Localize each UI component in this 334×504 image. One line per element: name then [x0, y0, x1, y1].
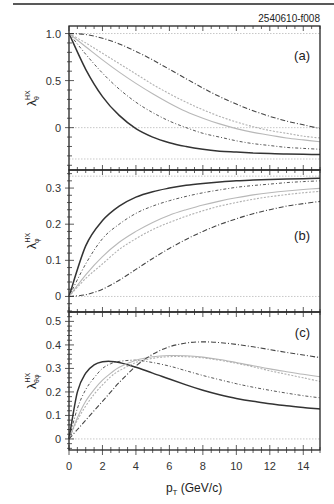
x-tick-label: 10 — [230, 460, 242, 472]
panel-a: 1.00.50(a)λθHX — [24, 26, 320, 170]
x-tick-label: 12 — [264, 460, 276, 472]
curve-dot-dash-short — [69, 181, 320, 297]
curve-dot-dash-short — [69, 34, 320, 150]
x-tick-label: 8 — [200, 460, 206, 472]
curve-solid — [69, 34, 320, 155]
y-tick-label: 0.1 — [46, 409, 61, 421]
y-tick-label: 0.3 — [46, 362, 61, 374]
y-axis-title: λθHX — [24, 90, 40, 106]
x-tick-label: 6 — [166, 460, 172, 472]
y-axis-title: λθφHX — [24, 373, 41, 389]
y-tick-label: 0.5 — [46, 75, 61, 87]
plot-frame — [69, 312, 320, 450]
curve-light-2 — [69, 34, 320, 139]
curve-light-1 — [69, 355, 320, 439]
panel-label: (a) — [294, 48, 310, 63]
y-tick-label: 0.4 — [46, 339, 61, 351]
panel-label: (b) — [294, 228, 310, 243]
y-tick-label: 0 — [55, 290, 61, 302]
curve-solid — [69, 178, 320, 296]
panel-b: 0.30.20.10(b)λφHX — [24, 170, 320, 312]
curve-light-1 — [69, 188, 320, 296]
figure-canvas: 2540610-f008 1.00.50(a)λθHX0.30.20.10(b)… — [0, 0, 334, 504]
y-axis-title: λφHX — [24, 232, 41, 249]
y-tick-label: 0 — [55, 122, 61, 134]
y-tick-label: 0.1 — [46, 254, 61, 266]
y-tick-label: 0 — [55, 433, 61, 445]
y-tick-label: 0.2 — [46, 218, 61, 230]
panel-label: (c) — [295, 325, 310, 340]
x-tick-label: 0 — [66, 460, 72, 472]
x-tick-label: 2 — [99, 460, 105, 472]
curve-dot-dash-short — [69, 360, 320, 439]
y-tick-label: 1.0 — [46, 28, 61, 40]
x-tick-label: 14 — [297, 460, 309, 472]
panel-c: 0.50.40.30.20.1002468101214(c)λθφHX — [24, 312, 320, 472]
x-tick-label: 4 — [133, 460, 139, 472]
curve-light-1 — [69, 34, 320, 142]
panels-group: 1.00.50(a)λθHX0.30.20.10(b)λφHX0.50.40.3… — [24, 26, 320, 472]
y-tick-label: 0.5 — [46, 315, 61, 327]
x-axis-title: pT (GeV/c) — [166, 481, 222, 497]
figure-id-label: 2540610-f008 — [258, 13, 320, 24]
x-axis-title-units: (GeV/c) — [177, 481, 222, 495]
y-tick-label: 0.2 — [46, 386, 61, 398]
curve-dash-dot — [69, 34, 320, 129]
curve-light-2 — [69, 357, 320, 439]
y-tick-label: 0.3 — [46, 182, 61, 194]
